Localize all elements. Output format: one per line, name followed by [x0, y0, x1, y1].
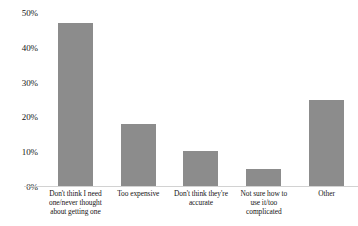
x-axis: Don't think I need one/never thought abo… [44, 189, 358, 226]
bar-not-sure-how-to-use-it[interactable] [246, 169, 281, 186]
y-tick-label-50: 50% [22, 9, 38, 18]
bar-slot-1 [107, 13, 170, 186]
x-label-slot-4: Other [295, 189, 358, 226]
x-tick-label-4-line-0: Other [296, 189, 357, 198]
bar-dont-think-theyre-accurate[interactable] [183, 151, 218, 186]
x-tick-label-0-line-2: about getting one [45, 207, 106, 216]
bar-too-expensive[interactable] [121, 124, 156, 186]
bar-other[interactable] [309, 100, 344, 187]
y-tick-label-20: 20% [22, 113, 38, 122]
bar-slot-2 [170, 13, 233, 186]
x-label-slot-2: Don't think they're accurate [170, 189, 233, 226]
plot-area [44, 13, 358, 187]
x-tick-label-3-line-2: complicated [233, 207, 294, 216]
x-label-slot-0: Don't think I need one/never thought abo… [44, 189, 107, 226]
x-tick-label-0-line-1: one/never thought [45, 198, 106, 207]
x-tick-label-1-line-0: Too expensive [108, 189, 169, 198]
bar-slot-4 [295, 13, 358, 186]
y-tick-label-30: 30% [22, 79, 38, 88]
y-axis: 50% 40% 30% 20% 10% 0% [0, 0, 44, 226]
bar-dont-think-i-need-one[interactable] [58, 23, 93, 186]
x-tick-label-0-line-0: Don't think I need [45, 189, 106, 198]
bars-layer [44, 13, 358, 186]
x-label-slot-3: Not sure how to use it/too complicated [232, 189, 295, 226]
y-tick-label-0: 0% [26, 183, 38, 192]
bar-slot-0 [44, 13, 107, 186]
y-tick-label-40: 40% [22, 44, 38, 53]
x-label-slot-1: Too expensive [107, 189, 170, 226]
x-tick-label-2-line-1: accurate [171, 198, 232, 207]
bar-chart: 50% 40% 30% 20% 10% 0% [0, 0, 358, 226]
y-tick-label-10: 10% [22, 148, 38, 157]
x-tick-label-2-line-0: Don't think they're [171, 189, 232, 198]
x-axis-baseline [24, 186, 358, 187]
bar-slot-3 [232, 13, 295, 186]
x-tick-label-3-line-1: use it/too [233, 198, 294, 207]
x-tick-label-3-line-0: Not sure how to [233, 189, 294, 198]
